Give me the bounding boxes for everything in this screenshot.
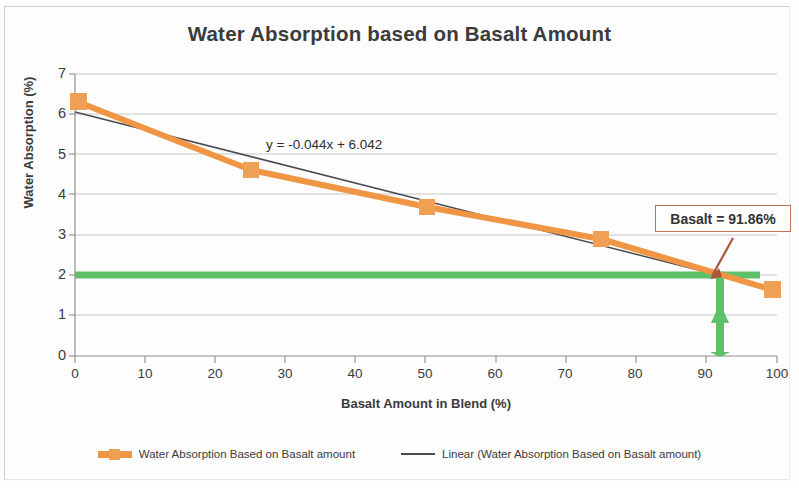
legend-label-trendline: Linear (Water Absorption Based on Basalt… [442,448,701,460]
data-point-marker [419,199,435,215]
basalt-callout-box: Basalt = 91.86% [655,205,791,232]
callout-arrow [712,238,733,276]
legend-marker-series-icon [98,451,132,458]
data-point-marker [764,281,781,298]
gridlines [75,74,777,315]
chart-container: Water Absorption based on Basalt Amount … [0,0,799,488]
data-point-marker [243,162,259,178]
basalt-reference-arrow-icon [711,303,729,323]
trendline-equation-label: y = -0.044x + 6.042 [266,137,382,152]
plot-area [0,0,799,488]
x-axis-ticks [75,356,777,363]
legend-label-series: Water Absorption Based on Basalt amount [139,448,355,460]
y-axis-ticks [69,74,75,356]
legend-marker-trendline-icon [401,453,435,455]
legend-entry-series: Water Absorption Based on Basalt amount [98,448,355,460]
basalt-callout-text: Basalt = 91.86% [670,211,775,227]
legend-entry-trendline: Linear (Water Absorption Based on Basalt… [401,448,701,460]
data-point-marker [70,93,87,110]
data-markers [70,93,781,298]
data-series-line [78,102,773,290]
data-point-marker [593,231,609,247]
chart-legend: Water Absorption Based on Basalt amount … [0,448,799,460]
